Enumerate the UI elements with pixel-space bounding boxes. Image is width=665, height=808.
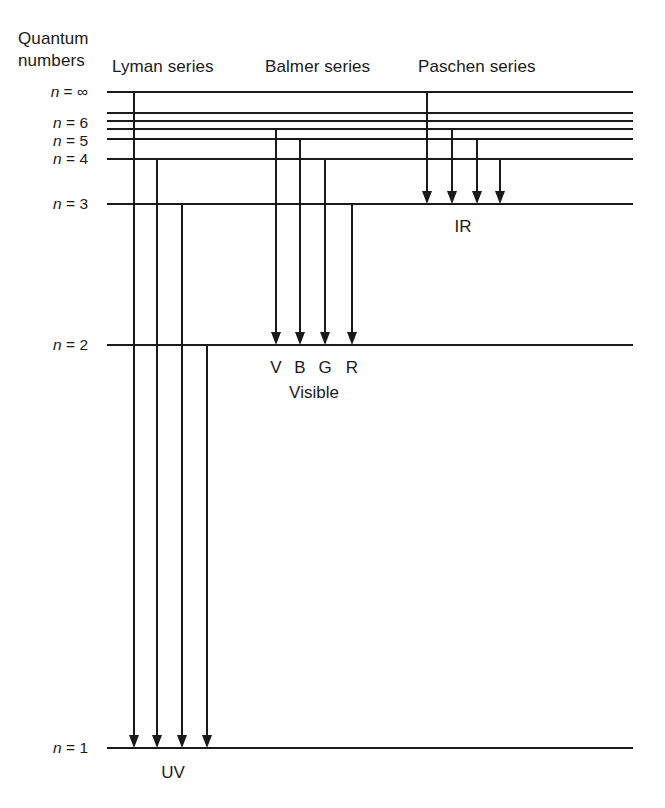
transition-arrowhead-lyman-3 <box>177 735 187 748</box>
transition-lyman-3 <box>177 204 187 748</box>
transition-arrowhead-balmer-4 <box>347 332 357 345</box>
transition-balmer-1 <box>271 129 281 345</box>
transition-paschen-4 <box>495 159 505 204</box>
energy-levels <box>107 92 633 748</box>
transition-lyman-1 <box>129 92 139 748</box>
energy-level-labels: n = ∞n = 6n = 5n = 4n = 3n = 2n = 1 <box>51 83 89 756</box>
transition-arrowhead-lyman-2 <box>152 735 162 748</box>
color-label-violet: V <box>270 358 282 377</box>
transition-lyman-4 <box>202 345 212 748</box>
transition-paschen-3 <box>472 139 482 204</box>
transition-paschen-1 <box>422 92 432 204</box>
transition-balmer-2 <box>295 139 305 345</box>
transition-arrowhead-lyman-4 <box>202 735 212 748</box>
level-label-n-inf: n = ∞ <box>51 83 88 100</box>
level-label-n-3: n = 3 <box>53 195 88 212</box>
band-label-uv: UV <box>161 763 185 782</box>
transition-arrowhead-paschen-1 <box>422 191 432 204</box>
band-label-visible: Visible <box>289 383 339 402</box>
transition-paschen-2 <box>447 129 457 204</box>
level-label-n-5: n = 5 <box>53 132 88 149</box>
transition-arrowhead-paschen-2 <box>447 191 457 204</box>
visible-color-labels: VBGR <box>270 358 358 377</box>
series-header-balmer: Balmer series <box>265 57 370 76</box>
color-label-blue: B <box>294 358 305 377</box>
transition-arrowhead-balmer-1 <box>271 332 281 345</box>
level-label-n-6: n = 6 <box>53 114 88 131</box>
quantum-numbers-caption: Quantum numbers <box>18 29 89 70</box>
color-label-green: G <box>318 358 331 377</box>
quantum-caption-line-2: numbers <box>18 51 85 70</box>
transition-arrowhead-paschen-3 <box>472 191 482 204</box>
transition-arrows <box>129 92 505 748</box>
energy-level-diagram: Quantum numbers Lyman seriesBalmer serie… <box>0 0 665 808</box>
level-label-n-1: n = 1 <box>53 739 88 756</box>
series-headers: Lyman seriesBalmer seriesPaschen series <box>112 57 536 76</box>
quantum-caption-line-1: Quantum <box>18 29 89 48</box>
transition-arrowhead-lyman-1 <box>129 735 139 748</box>
band-label-ir: IR <box>455 217 472 236</box>
figure-canvas: Quantum numbers Lyman seriesBalmer serie… <box>0 0 665 808</box>
series-header-lyman: Lyman series <box>112 57 214 76</box>
transition-balmer-4 <box>347 204 357 345</box>
level-label-n-4: n = 4 <box>53 150 88 167</box>
transition-arrowhead-paschen-4 <box>495 191 505 204</box>
transition-arrowhead-balmer-2 <box>295 332 305 345</box>
transition-lyman-2 <box>152 159 162 748</box>
color-label-red: R <box>346 358 358 377</box>
transition-arrowhead-balmer-3 <box>320 332 330 345</box>
series-header-paschen: Paschen series <box>418 57 536 76</box>
level-label-n-2: n = 2 <box>53 336 88 353</box>
transition-balmer-3 <box>320 159 330 345</box>
